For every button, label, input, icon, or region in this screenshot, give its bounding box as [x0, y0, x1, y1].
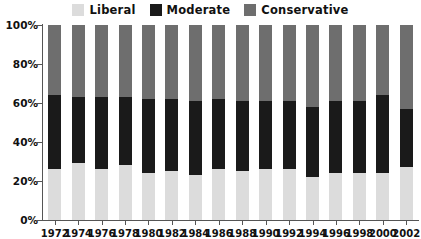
bar-segment-moderate [72, 97, 85, 163]
x-axis-tick-mark [336, 220, 337, 225]
x-axis-tick-mark [78, 220, 79, 225]
x-axis-tick-mark [242, 220, 243, 225]
bar-segment-moderate [236, 101, 249, 171]
x-axis-tick-mark [55, 220, 56, 225]
bar-segment-moderate [376, 95, 389, 173]
y-axis-tick-mark [36, 64, 42, 65]
bar-segment-liberal [189, 175, 202, 220]
x-axis-tick-mark [219, 220, 220, 225]
bar-segment-liberal [353, 173, 366, 220]
bar-segment-moderate [119, 97, 132, 165]
x-axis-tick-mark [383, 220, 384, 225]
bar-1998 [353, 25, 366, 220]
bar-segment-liberal [376, 173, 389, 220]
bar-segment-liberal [72, 163, 85, 220]
bar-segment-liberal [283, 169, 296, 220]
bar-segment-conservative [283, 25, 296, 101]
bar-segment-moderate [259, 101, 272, 169]
y-axis-tick-mark [36, 220, 42, 221]
x-axis-tick-label: 2002 [392, 228, 420, 239]
bar-segment-liberal [306, 177, 319, 220]
x-axis-tick-mark [148, 220, 149, 225]
legend-item-liberal: Liberal [72, 4, 135, 16]
bar-1978 [119, 25, 132, 220]
bar-segment-conservative [400, 25, 413, 109]
bar-segment-conservative [376, 25, 389, 95]
legend-swatch-moderate-icon [150, 4, 162, 16]
bar-1972 [48, 25, 61, 220]
bar-1992 [283, 25, 296, 220]
bar-segment-moderate [189, 101, 202, 175]
bar-segment-liberal [329, 173, 342, 220]
x-axis-tick-mark [102, 220, 103, 225]
bar-segment-conservative [189, 25, 202, 101]
bar-segment-liberal [236, 171, 249, 220]
bar-segment-conservative [119, 25, 132, 97]
bar-segment-moderate [400, 109, 413, 168]
bar-segment-conservative [212, 25, 225, 99]
bar-segment-liberal [95, 169, 108, 220]
bar-1980 [142, 25, 155, 220]
bar-1996 [329, 25, 342, 220]
bar-segment-liberal [259, 169, 272, 220]
legend-item-moderate: Moderate [150, 4, 231, 16]
bar-1982 [165, 25, 178, 220]
bar-segment-liberal [142, 173, 155, 220]
bar-segment-liberal [119, 165, 132, 220]
bar-segment-conservative [165, 25, 178, 99]
bar-segment-conservative [48, 25, 61, 95]
x-axis-tick-mark [406, 220, 407, 225]
plot-area [43, 25, 418, 220]
x-axis-tick-mark [125, 220, 126, 225]
bar-segment-conservative [329, 25, 342, 101]
legend-label-conservative: Conservative [261, 4, 348, 16]
bar-1974 [72, 25, 85, 220]
bar-1988 [236, 25, 249, 220]
x-axis-line [42, 220, 419, 221]
bar-segment-liberal [48, 169, 61, 220]
stacked-bar-chart: Liberal Moderate Conservative 0%20%40%60… [0, 0, 421, 239]
x-axis-tick-mark [289, 220, 290, 225]
bar-segment-moderate [48, 95, 61, 169]
legend-swatch-conservative-icon [244, 4, 256, 16]
chart-legend: Liberal Moderate Conservative [0, 0, 421, 20]
bar-segment-conservative [259, 25, 272, 101]
y-axis-tick-label: 40% [0, 136, 38, 148]
bar-1994 [306, 25, 319, 220]
bar-segment-conservative [306, 25, 319, 107]
legend-swatch-liberal-icon [72, 4, 84, 16]
y-axis-tick-mark [36, 25, 42, 26]
bar-2002 [400, 25, 413, 220]
bar-1990 [259, 25, 272, 220]
bar-2000 [376, 25, 389, 220]
x-axis-tick-mark [359, 220, 360, 225]
legend-item-conservative: Conservative [244, 4, 348, 16]
x-axis-tick-mark [195, 220, 196, 225]
bar-segment-moderate [283, 101, 296, 169]
y-axis-tick-mark [36, 181, 42, 182]
bar-segment-moderate [165, 99, 178, 171]
bar-segment-conservative [95, 25, 108, 97]
y-axis-tick-label: 80% [0, 58, 38, 70]
legend-label-liberal: Liberal [89, 4, 135, 16]
y-axis-tick-label: 100% [0, 19, 38, 31]
bar-segment-moderate [212, 99, 225, 169]
bar-1986 [212, 25, 225, 220]
bar-segment-liberal [165, 171, 178, 220]
bar-segment-conservative [142, 25, 155, 99]
x-axis-tick-mark [266, 220, 267, 225]
y-axis-tick-label: 20% [0, 175, 38, 187]
bar-1976 [95, 25, 108, 220]
bar-segment-moderate [353, 101, 366, 173]
bar-segment-conservative [353, 25, 366, 101]
bar-segment-moderate [95, 97, 108, 169]
bar-1984 [189, 25, 202, 220]
x-axis-tick-mark [313, 220, 314, 225]
bar-segment-conservative [236, 25, 249, 101]
bar-segment-liberal [212, 169, 225, 220]
bar-segment-moderate [142, 99, 155, 173]
bar-segment-liberal [400, 167, 413, 220]
y-axis-tick-mark [36, 103, 42, 104]
bar-segment-moderate [329, 101, 342, 173]
legend-label-moderate: Moderate [167, 4, 231, 16]
